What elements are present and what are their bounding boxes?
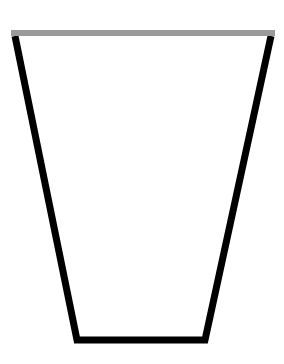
cup-diagram <box>0 0 284 364</box>
